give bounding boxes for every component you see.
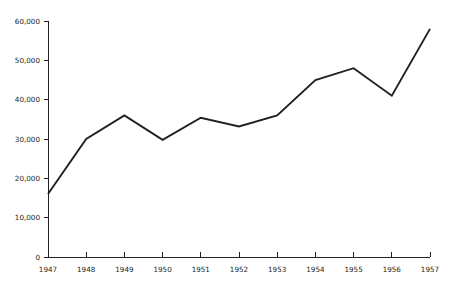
- x-axis-tick-label: 1952: [230, 265, 248, 274]
- x-axis-tick-label: 1950: [153, 265, 172, 274]
- x-axis-tick-label: 1947: [39, 265, 57, 274]
- x-axis-tick-label: 1948: [77, 265, 96, 274]
- y-axis-tick-group: 010,00020,00030,00040,00050,00060,000: [15, 17, 48, 262]
- x-axis-tick-label: 1951: [192, 265, 210, 274]
- x-axis-tick-group: 1947194819491950195119521953195419551956…: [39, 252, 439, 274]
- x-axis-tick-label: 1949: [115, 265, 134, 274]
- x-axis-tick-label: 1953: [268, 265, 286, 274]
- x-axis-tick-label: 1955: [344, 265, 362, 274]
- y-axis-tick-label: 10,000: [15, 213, 41, 222]
- y-axis-tick-label: 60,000: [15, 17, 41, 26]
- x-axis-tick-label: 1957: [421, 265, 439, 274]
- y-axis-tick-label: 30,000: [15, 135, 41, 144]
- line-chart-figure: 010,00020,00030,00040,00050,00060,000 19…: [0, 0, 455, 296]
- y-axis-tick-label: 40,000: [15, 95, 41, 104]
- data-series-line: [48, 29, 430, 194]
- x-axis-tick-label: 1956: [383, 265, 402, 274]
- x-axis-tick-label: 1954: [306, 265, 325, 274]
- y-axis-tick-label: 0: [35, 253, 40, 262]
- chart-canvas: 010,00020,00030,00040,00050,00060,000 19…: [0, 0, 455, 296]
- y-axis-tick-label: 20,000: [15, 174, 41, 183]
- y-axis-tick-label: 50,000: [15, 56, 41, 65]
